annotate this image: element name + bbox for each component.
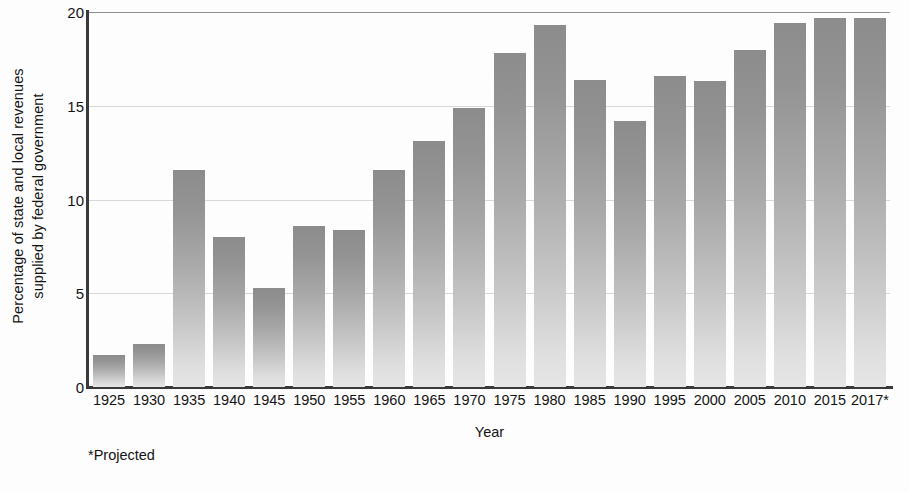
bar-series bbox=[89, 12, 890, 387]
x-tick-label-1980: 1980 bbox=[533, 392, 565, 408]
bar-1940 bbox=[213, 237, 245, 387]
x-tick-label-1945: 1945 bbox=[253, 392, 285, 408]
x-tick-label-1985: 1985 bbox=[573, 392, 605, 408]
bar-1980 bbox=[534, 25, 566, 387]
plot-area bbox=[89, 12, 890, 387]
footnote-projected: *Projected bbox=[88, 447, 155, 463]
bar-1960 bbox=[373, 170, 405, 388]
y-tick-label-10: 10 bbox=[56, 191, 84, 208]
bar-1935 bbox=[173, 170, 205, 388]
y-axis-title-line-2: supplied by federal government bbox=[28, 68, 48, 323]
y-tick-label-15: 15 bbox=[56, 97, 84, 114]
bar-1995 bbox=[654, 76, 686, 387]
bar-2000 bbox=[694, 81, 726, 387]
y-axis-tick-labels: 05101520 bbox=[52, 0, 84, 392]
x-axis-title: Year bbox=[89, 424, 890, 440]
bar-2005 bbox=[734, 50, 766, 388]
x-tick-label-2015: 2015 bbox=[814, 392, 846, 408]
x-tick-label-1990: 1990 bbox=[614, 392, 646, 408]
x-tick-label-1925: 1925 bbox=[93, 392, 125, 408]
bar-1930 bbox=[133, 344, 165, 387]
x-tick-label-1965: 1965 bbox=[413, 392, 445, 408]
bar-1970 bbox=[453, 108, 485, 387]
bar-1985 bbox=[574, 80, 606, 388]
x-tick-label-2017: 2017* bbox=[851, 392, 889, 408]
x-tick-label-1955: 1955 bbox=[333, 392, 365, 408]
x-axis-tick-labels: 1925193019351940194519501955196019651970… bbox=[89, 392, 890, 414]
bar-1955 bbox=[333, 230, 365, 388]
x-tick-label-2005: 2005 bbox=[734, 392, 766, 408]
y-axis-title: Percentage of state and local revenues s… bbox=[0, 0, 56, 392]
bar-2017 bbox=[854, 18, 886, 387]
x-tick-label-1975: 1975 bbox=[493, 392, 525, 408]
y-tick-label-5: 5 bbox=[56, 285, 84, 302]
y-tick-label-20: 20 bbox=[56, 4, 84, 21]
x-tick-label-1940: 1940 bbox=[213, 392, 245, 408]
bar-1975 bbox=[494, 53, 526, 387]
bar-2010 bbox=[774, 23, 806, 387]
y-tick-label-0: 0 bbox=[56, 379, 84, 396]
bar-1990 bbox=[614, 121, 646, 387]
bar-1925 bbox=[93, 355, 125, 387]
bar-1965 bbox=[413, 141, 445, 387]
x-tick-label-1930: 1930 bbox=[133, 392, 165, 408]
x-tick-label-1935: 1935 bbox=[173, 392, 205, 408]
bar-chart-figure: Percentage of state and local revenues s… bbox=[0, 0, 909, 492]
bar-1945 bbox=[253, 288, 285, 387]
bar-1950 bbox=[293, 226, 325, 387]
x-tick-label-1970: 1970 bbox=[453, 392, 485, 408]
x-tick-label-2000: 2000 bbox=[694, 392, 726, 408]
x-tick-label-1995: 1995 bbox=[654, 392, 686, 408]
bar-2015 bbox=[814, 18, 846, 387]
x-tick-label-1950: 1950 bbox=[293, 392, 325, 408]
y-axis-title-line-1: Percentage of state and local revenues bbox=[8, 68, 28, 323]
x-tick-label-1960: 1960 bbox=[373, 392, 405, 408]
x-tick-label-2010: 2010 bbox=[774, 392, 806, 408]
